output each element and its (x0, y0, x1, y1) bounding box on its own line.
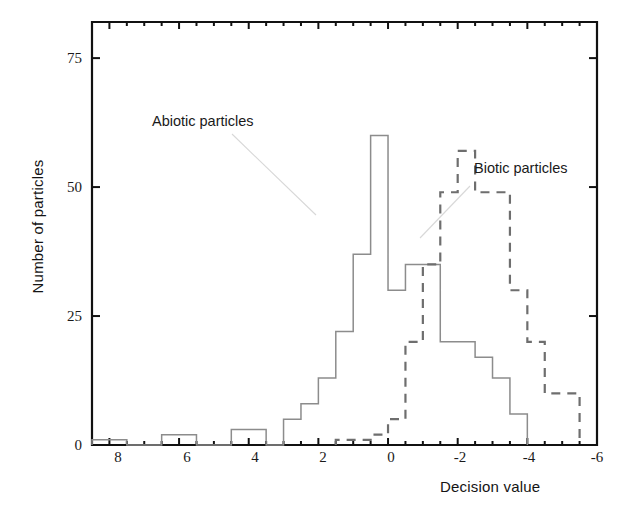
leader-biotic (420, 186, 470, 238)
data-series (92, 135, 580, 445)
x-tick-label-6: 6 (167, 449, 207, 466)
series-path-abiotic (92, 135, 527, 445)
x-tick-label-4: 4 (235, 449, 275, 466)
x-tick-label-2: 2 (303, 449, 343, 466)
x-tick-label-m6: -6 (577, 449, 617, 466)
annotation-leader-lines (232, 134, 470, 238)
axis-ticks (92, 22, 597, 445)
histogram-figure: Number of particles Decision value Abiot… (0, 0, 629, 513)
y-tick-label-75: 75 (42, 50, 82, 67)
x-tick-label-0: 0 (371, 449, 411, 466)
series-label-biotic: Biotic particles (474, 160, 567, 176)
leader-abiotic (232, 134, 316, 215)
series-path-biotic (336, 151, 580, 445)
x-axis-title: Decision value (440, 478, 540, 495)
x-tick-label-8: 8 (98, 449, 138, 466)
y-tick-label-0: 0 (42, 437, 82, 454)
y-tick-label-25: 25 (42, 308, 82, 325)
y-axis-title: Number of particles (29, 127, 46, 327)
x-tick-label-m2: -2 (440, 449, 480, 466)
x-tick-label-m4: -4 (509, 449, 549, 466)
y-tick-label-50: 50 (42, 179, 82, 196)
plot-frame (92, 22, 597, 445)
series-label-abiotic: Abiotic particles (152, 113, 254, 129)
plot-canvas (0, 0, 629, 513)
